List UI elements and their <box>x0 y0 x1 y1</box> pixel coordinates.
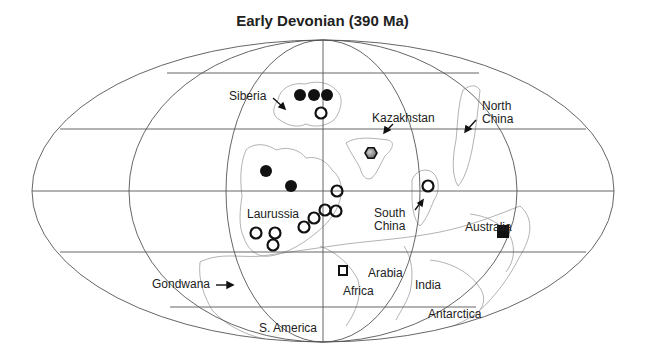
label-africa: Africa <box>343 285 374 298</box>
label-laurussia: Laurussia <box>247 208 299 221</box>
graticule <box>32 40 614 342</box>
marker-filled-circle <box>260 165 272 177</box>
label-antarctica: Antarctica <box>428 308 481 321</box>
marker-open-circle <box>268 240 279 251</box>
marker-hexagon <box>365 148 377 158</box>
north-china-coastline <box>453 86 480 186</box>
label-arabia: Arabia <box>368 267 403 280</box>
label-siberia: Siberia <box>229 90 266 103</box>
marker-filled-circle <box>321 89 333 101</box>
label-gondwana: Gondwana <box>152 278 210 291</box>
label-s-america: S. America <box>259 322 317 335</box>
label-south-china-line2: China <box>374 220 405 233</box>
marker-filled-circle <box>285 180 297 192</box>
marker-open-circle <box>331 206 342 217</box>
label-north-china-line2: China <box>482 113 513 126</box>
label-arrows <box>216 98 476 288</box>
laurussia-coastline <box>240 145 342 257</box>
marker-filled-circle <box>294 89 306 101</box>
marker-open-square <box>339 266 347 275</box>
marker-open-circle <box>320 205 331 216</box>
south-china-coastline <box>412 170 438 226</box>
label-kazakhstan: Kazakhstan <box>372 112 435 125</box>
marker-open-circle <box>270 228 281 239</box>
marker-filled-circle <box>308 89 320 101</box>
india-coastline <box>396 246 412 320</box>
marker-open-circle <box>423 181 434 192</box>
marker-open-circle <box>299 222 310 233</box>
marker-open-circle <box>251 228 262 239</box>
marker-open-circle <box>316 108 327 119</box>
marker-open-circle <box>309 213 320 224</box>
paleogeographic-map <box>0 0 645 362</box>
label-australia: Australia <box>465 221 512 234</box>
label-india: India <box>415 279 441 292</box>
